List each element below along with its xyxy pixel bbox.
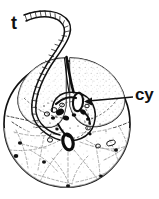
label-t-flagellum: t [11,14,17,32]
granule [36,182,40,185]
label-cy-cytostome: cy [135,86,153,103]
granule [42,160,46,163]
granule [14,154,19,158]
granule [18,141,22,145]
figure-canvas: t cy [0,0,159,199]
granule [114,148,118,151]
